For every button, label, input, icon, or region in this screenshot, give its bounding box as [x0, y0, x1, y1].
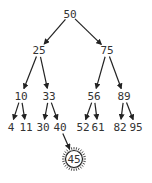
tree-node-11: 11: [19, 122, 32, 133]
edge-56-to-52: [86, 103, 92, 120]
edge-56-to-61: [95, 103, 97, 119]
tree-node-4: 4: [8, 122, 15, 133]
bst-diagram: 5025751033568941130405261829545: [0, 0, 152, 183]
tree-node-82: 82: [113, 122, 126, 133]
edge-25-to-10: [24, 57, 37, 89]
tree-node-61: 61: [91, 122, 104, 133]
tree-node-95: 95: [129, 122, 142, 133]
tree-node-56: 56: [87, 91, 100, 102]
edge-89-to-95: [127, 103, 134, 120]
edge-50-to-25: [44, 19, 65, 44]
tree-node-25: 25: [32, 45, 45, 56]
edge-50-to-75: [75, 19, 101, 45]
tree-node-45: 45: [67, 154, 80, 165]
edge-89-to-82: [121, 103, 123, 119]
tree-node-50: 50: [63, 9, 76, 20]
edge-10-to-4: [13, 103, 18, 120]
edge-75-to-56: [96, 57, 105, 89]
tree-node-33: 33: [42, 91, 55, 102]
tree-node-89: 89: [117, 91, 130, 102]
tree-node-75: 75: [100, 45, 113, 56]
edge-33-to-30: [45, 103, 48, 119]
edge-25-to-33: [40, 57, 47, 88]
tree-node-52: 52: [76, 122, 89, 133]
edge-10-to-11: [22, 103, 25, 119]
tree-node-40: 40: [53, 122, 66, 133]
tree-node-10: 10: [14, 91, 27, 102]
tree-node-30: 30: [36, 122, 49, 133]
edge-40-to-45: [63, 133, 70, 149]
edge-75-to-89: [109, 57, 121, 89]
edge-33-to-40: [51, 103, 57, 120]
